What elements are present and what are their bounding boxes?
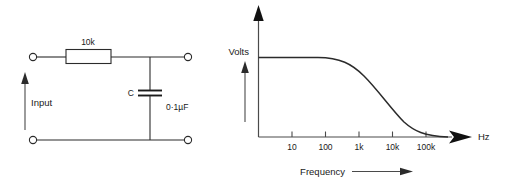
capacitor-value-label: 0·1µF xyxy=(166,102,188,112)
circuit-diagram: 10k C 0·1µF Input xyxy=(21,37,191,144)
chart-x-tick-label-1: 100 xyxy=(318,142,332,152)
response-curve xyxy=(259,58,449,138)
resistor-value-label: 10k xyxy=(81,37,95,47)
chart-x-tick-label-4: 100k xyxy=(417,142,436,152)
chart-y-axis-label: Volts xyxy=(228,46,249,57)
output-top-terminal xyxy=(184,53,191,60)
output-bottom-terminal xyxy=(184,136,191,143)
figure-root: 10k C 0·1µF Input xyxy=(0,0,511,185)
resistor-body xyxy=(66,50,111,64)
chart-x-tick-label-3: 10k xyxy=(386,142,400,152)
y-axis-label-arrow-icon xyxy=(241,61,249,122)
chart-x-tick-label-2: 1k xyxy=(355,142,365,152)
chart-x-axis-label: Frequency xyxy=(300,166,345,177)
chart-x-ticks xyxy=(292,132,426,138)
input-label: Input xyxy=(31,97,52,108)
input-top-terminal xyxy=(29,53,36,60)
y-axis-arrowhead-icon xyxy=(253,5,263,21)
input-bottom-terminal xyxy=(29,136,36,143)
frequency-arrow-icon xyxy=(352,168,413,175)
chart-x-tick-label-0: 10 xyxy=(287,142,297,152)
x-axis-arrowhead-icon xyxy=(449,131,472,144)
frequency-response-chart: 10 100 1k 10k 100k Volts Hz Frequency xyxy=(228,5,489,177)
figure-canvas: 10k C 0·1µF Input xyxy=(0,0,511,185)
chart-x-unit-label: Hz xyxy=(478,131,490,142)
input-arrow-icon xyxy=(21,72,29,130)
capacitor-designator-label: C xyxy=(128,88,134,98)
